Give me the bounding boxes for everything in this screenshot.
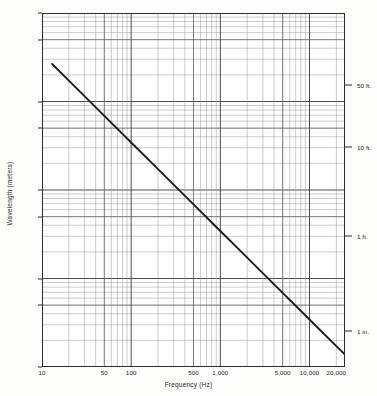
y-tick-mark xyxy=(38,101,42,102)
secondary-tick-mark xyxy=(345,147,352,148)
y-tick-mark xyxy=(38,190,42,191)
secondary-tick-label: 1 ft. xyxy=(357,232,368,239)
wavelength-curve xyxy=(42,13,345,367)
x-tick-label: 500 xyxy=(188,369,199,376)
y-tick-mark xyxy=(38,39,42,40)
plot-area xyxy=(42,13,345,367)
y-tick-mark xyxy=(38,13,42,14)
secondary-tick-mark xyxy=(345,85,352,86)
x-tick-label: 1,000 xyxy=(212,369,228,376)
x-tick-label: 100 xyxy=(126,369,137,376)
y-tick-mark xyxy=(38,278,42,279)
x-tick-label: 50 xyxy=(101,369,108,376)
y-tick-mark xyxy=(38,367,42,368)
x-tick-label: 20,000 xyxy=(327,369,347,376)
wavelength-frequency-chart: 100.050.010.05.01.00.50.10.050.01 105010… xyxy=(0,0,377,396)
secondary-tick-label: 1 in. xyxy=(357,328,369,335)
x-axis-title: Frequency (Hz) xyxy=(0,381,377,388)
secondary-tick-label: 50 ft. xyxy=(357,82,371,89)
x-tick-label: 5,000 xyxy=(275,369,291,376)
secondary-tick-mark xyxy=(345,235,352,236)
x-tick-label: 10 xyxy=(38,369,45,376)
y-tick-mark xyxy=(38,305,42,306)
x-tick-label: 10,000 xyxy=(300,369,320,376)
secondary-tick-label: 10 ft. xyxy=(357,144,371,151)
secondary-tick-mark xyxy=(345,331,352,332)
y-tick-mark xyxy=(38,128,42,129)
y-axis-title: Wavelength (meters) xyxy=(6,139,13,249)
y-tick-mark xyxy=(38,216,42,217)
